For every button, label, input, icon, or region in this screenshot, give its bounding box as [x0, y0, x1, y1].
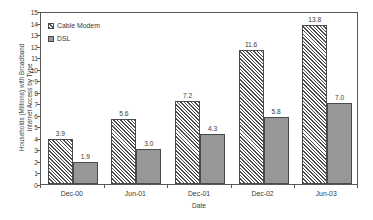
legend-label-cable-modem: Cable Modem [57, 22, 100, 30]
bar-value-label: 5.6 [119, 110, 128, 118]
legend-label-dsl: DSL [57, 35, 70, 43]
x-axis-tick-label: Jun-01 [125, 190, 146, 198]
x-axis-title: Date [40, 202, 358, 210]
y-axis-tick-label: 5 [20, 124, 38, 131]
y-axis-tick-label: 8 [20, 89, 38, 96]
x-axis-tick-mark [104, 185, 105, 188]
bar-value-label: 7.2 [183, 92, 192, 100]
legend: Cable Modem DSL [48, 20, 100, 46]
legend-swatch-cable-modem [48, 23, 54, 29]
y-axis-tick-label: 9 [20, 78, 38, 85]
plot-area: Cable Modem DSL 3.91.95.63.07.24.311.65.… [40, 12, 358, 185]
bar-dsl-dec-01: 4.3 [200, 134, 225, 184]
x-axis-tick-mark [357, 185, 358, 188]
x-axis-tick-mark [231, 185, 232, 188]
bar-value-label: 3.0 [144, 140, 153, 148]
bar-value-label: 3.9 [56, 130, 65, 138]
bar-dsl-dec-02: 5.8 [264, 117, 289, 184]
y-axis-tick-label: 7 [20, 101, 38, 108]
bar-value-label: 13.8 [308, 16, 321, 24]
bar-cable-modem-dec-02: 11.6 [239, 50, 264, 184]
bar-value-label: 11.6 [245, 41, 257, 49]
y-axis-tick-label: 12 [20, 43, 38, 50]
bar-value-label: 7.0 [335, 94, 344, 102]
bar-cable-modem-dec-01: 7.2 [175, 101, 200, 184]
legend-item-dsl: DSL [48, 33, 100, 44]
x-axis-tick-label: Dec-02 [251, 190, 273, 198]
x-axis-tick-mark [40, 185, 41, 188]
x-axis-tick-label: Dec-01 [188, 190, 210, 198]
legend-swatch-dsl [48, 36, 54, 42]
x-axis-tick-label: Dec-00 [61, 190, 83, 198]
y-axis-tick-label: 1 [20, 170, 38, 177]
y-axis-tick-labels: 1514131211109876543210 [20, 12, 38, 185]
y-axis-tick-label: 15 [20, 9, 38, 16]
bar-cable-modem-dec-00: 3.9 [48, 139, 73, 184]
y-axis-tick-label: 3 [20, 147, 38, 154]
bar-dsl-jun-01: 3.0 [136, 149, 161, 184]
bar-value-label: 4.3 [208, 125, 217, 133]
x-axis-tick-labels: Dec-00Jun-01Dec-01Dec-02Jun-03 [40, 185, 358, 201]
bar-cable-modem-jun-03: 13.8 [302, 25, 327, 184]
y-axis-tick-label: 2 [20, 158, 38, 165]
y-axis-tick-label: 0 [20, 182, 38, 189]
bar-dsl-dec-00: 1.9 [73, 162, 98, 184]
bar-dsl-jun-03: 7.0 [327, 103, 352, 184]
y-axis-tick-label: 4 [20, 135, 38, 142]
bar-cable-modem-jun-01: 5.6 [111, 119, 136, 184]
y-axis-tick-label: 11 [20, 55, 38, 62]
bar-chart: Households (Millions) with Broadband Int… [0, 0, 373, 220]
bar-value-label: 1.9 [81, 153, 90, 161]
y-axis-tick-label: 14 [20, 20, 38, 27]
x-axis-tick-mark [294, 185, 295, 188]
x-axis-tick-label: Jun-03 [316, 190, 337, 198]
y-axis-tick-label: 13 [20, 32, 38, 39]
x-axis-tick-mark [167, 185, 168, 188]
y-axis-tick-label: 10 [20, 66, 38, 73]
legend-item-cable-modem: Cable Modem [48, 20, 100, 31]
y-axis-tick-label: 6 [20, 112, 38, 119]
bar-value-label: 5.8 [272, 108, 281, 116]
